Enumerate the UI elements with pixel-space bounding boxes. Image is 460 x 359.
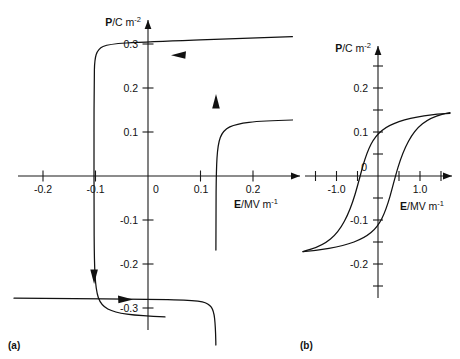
hysteresis-figure: -0.2 -0.1 0.1 0.2 0.3 0.2 0.1 -0.1 -0.2 …	[0, 0, 460, 359]
panel-b-xticklabel--1.0: -1.0	[327, 183, 345, 195]
panel-a-xticklabel-0.1: 0.1	[194, 183, 209, 195]
panel-a-yticklabel--0.1: -0.1	[120, 214, 138, 226]
panel-b-caption: (b)	[300, 340, 313, 351]
panel-a-origin-label: 0	[153, 183, 159, 195]
figure-background	[0, 0, 460, 359]
panel-a-yticklabel--0.2: -0.2	[120, 258, 138, 270]
panel-b-yticklabel-0.2: 0.2	[353, 82, 368, 94]
panel-a-xticklabel-0.2: 0.2	[246, 183, 261, 195]
panel-b-yticklabel--0.2: -0.2	[350, 258, 368, 270]
panel-a-caption: (a)	[8, 340, 20, 351]
panel-a-yticklabel--0.3: -0.3	[120, 302, 138, 314]
panel-a-yticklabel-0.3: 0.3	[123, 38, 138, 50]
panel-a-yticklabel-0.1: 0.1	[123, 126, 138, 138]
panel-b-yticklabel-0.1: 0.1	[353, 126, 368, 138]
panel-b-xticklabel-1.0: 1.0	[413, 183, 428, 195]
panel-b-yticklabel--0.1: -0.1	[350, 214, 368, 226]
panel-a-xticklabel--0.1: -0.1	[86, 183, 104, 195]
panel-a-yticklabel-0.2: 0.2	[123, 82, 138, 94]
panel-a-xticklabel--0.2: -0.2	[34, 183, 52, 195]
